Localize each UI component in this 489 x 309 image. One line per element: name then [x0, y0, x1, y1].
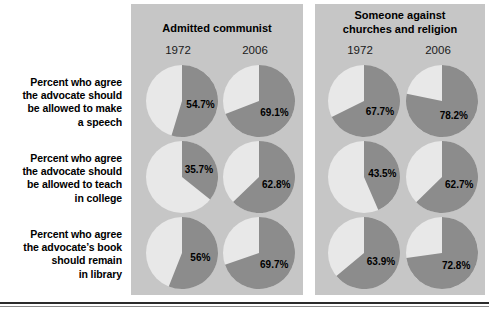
column-header-2006: 2006 [403, 44, 473, 56]
pie-graphic [145, 216, 219, 290]
row-label-line: be allowed to teach [27, 178, 122, 190]
pie-graphic [405, 64, 479, 138]
row-label-column: Percent who agreethe advocate shouldbe a… [0, 0, 128, 296]
row-label-line: should remain [52, 254, 122, 266]
row-label-line: the advocate should [22, 89, 122, 101]
row-label-line: a speech [78, 116, 122, 128]
panel-title-line: Admitted communist [162, 22, 271, 34]
pie-graphic [405, 140, 479, 214]
pie-chart: 35.7% [145, 140, 219, 214]
row-label-line: Percent who agree [30, 228, 122, 240]
row-label-line: Percent who agree [30, 76, 122, 88]
row-label-line: the advocate’s book [23, 241, 122, 253]
pie-chart: 62.7% [405, 140, 479, 214]
row-label-line: in college [75, 192, 122, 204]
row-label-line: in library [79, 268, 122, 280]
pie-chart: 62.8% [222, 140, 296, 214]
pie-graphic [327, 216, 401, 290]
column-header-2006: 2006 [220, 44, 290, 56]
row-label-library: Percent who agreethe advocate’s bookshou… [0, 228, 122, 281]
bottom-divider [0, 302, 489, 304]
row-label-line: be allowed to make [28, 102, 122, 114]
row-label-speech: Percent who agreethe advocate shouldbe a… [0, 76, 122, 129]
row-label-teach: Percent who agreethe advocate shouldbe a… [0, 152, 122, 205]
panel-title-line: Someone against [354, 9, 445, 21]
column-header-1972: 1972 [143, 44, 213, 56]
pie-chart: 56% [145, 216, 219, 290]
pie-graphic [405, 216, 479, 290]
pie-graphic [327, 64, 401, 138]
pie-chart: 78.2% [405, 64, 479, 138]
pie-chart: 54.7% [145, 64, 219, 138]
column-header-1972: 1972 [325, 44, 395, 56]
pie-graphic [222, 140, 296, 214]
pie-chart: 72.8% [405, 216, 479, 290]
bottom-divider-shadow [0, 306, 489, 307]
panel-title: Someone againstchurches and religion [315, 9, 485, 36]
pie-chart: 69.1% [222, 64, 296, 138]
pie-chart: 43.5% [327, 140, 401, 214]
pie-graphic [222, 64, 296, 138]
pie-chart-figure: Percent who agreethe advocate shouldbe a… [0, 0, 489, 309]
panel-title-line: churches and religion [343, 23, 457, 35]
pie-chart: 67.7% [327, 64, 401, 138]
pie-graphic [145, 140, 219, 214]
pie-chart: 63.9% [327, 216, 401, 290]
row-label-line: Percent who agree [30, 152, 122, 164]
pie-graphic [327, 140, 401, 214]
panel-title: Admitted communist [131, 22, 303, 36]
pie-graphic [222, 216, 296, 290]
row-label-line: the advocate should [22, 165, 122, 177]
pie-graphic [145, 64, 219, 138]
pie-chart: 69.7% [222, 216, 296, 290]
